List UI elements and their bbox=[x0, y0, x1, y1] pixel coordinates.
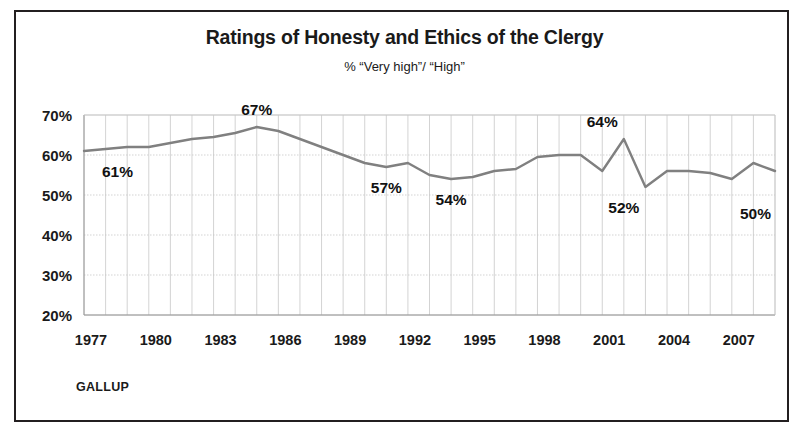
data-point-label: 61% bbox=[102, 163, 133, 180]
data-point-label: 54% bbox=[436, 191, 467, 208]
data-point-label: 64% bbox=[587, 113, 618, 130]
x-axis-tick-label: 1998 bbox=[528, 332, 560, 348]
data-point-label: 57% bbox=[371, 179, 402, 196]
x-axis-tick-label: 2004 bbox=[658, 332, 690, 348]
x-axis-tick-label: 1983 bbox=[204, 332, 236, 348]
data-point-label: 67% bbox=[241, 101, 272, 118]
x-axis-tick-label: 2007 bbox=[723, 332, 755, 348]
y-axis-tick-label: 20% bbox=[42, 307, 72, 324]
x-axis-tick-label: 1977 bbox=[75, 332, 107, 348]
data-point-label: 50% bbox=[740, 205, 771, 222]
y-axis-tick-label: 50% bbox=[42, 187, 72, 204]
x-axis-tick-label: 1989 bbox=[334, 332, 366, 348]
y-axis-tick-label: 60% bbox=[42, 147, 72, 164]
x-axis-tick-label: 1980 bbox=[140, 332, 172, 348]
x-axis-tick-label: 1986 bbox=[269, 332, 301, 348]
data-point-label: 52% bbox=[608, 199, 639, 216]
x-axis-tick-label: 1995 bbox=[464, 332, 496, 348]
y-axis-tick-label: 70% bbox=[42, 107, 72, 124]
x-axis-tick-label: 1992 bbox=[399, 332, 431, 348]
x-axis-tick-label: 2001 bbox=[593, 332, 625, 348]
source-attribution: GALLUP bbox=[76, 380, 129, 394]
line-chart-plot: 70%60%50%40%30%20%1977198019831986198919… bbox=[0, 0, 809, 434]
y-axis-tick-label: 40% bbox=[42, 227, 72, 244]
chart-figure: Ratings of Honesty and Ethics of the Cle… bbox=[0, 0, 809, 434]
y-axis-tick-label: 30% bbox=[42, 267, 72, 284]
